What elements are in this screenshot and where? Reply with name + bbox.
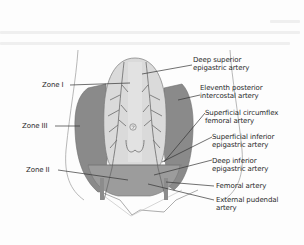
label-superficial-circumflex-femoral-artery: Superficial circumflex femoral artery [205,109,278,125]
label-zone-3: Zone III [22,122,47,130]
label-line-1: Superficial circumflex [205,109,278,117]
label-line-1: External pudendal [216,196,278,204]
label-eleventh-posterior-intercostal-artery: Eleventh posterior intercostal artery [200,84,263,100]
label-line-2: femoral artery [205,117,278,125]
label-deep-inferior-epigastric-artery: Deep inferior epigastric artery [212,157,268,173]
linea-alba-strip [128,62,142,162]
femoral-vessel-left [100,178,104,200]
label-line-1: Deep superior [193,56,249,64]
label-line-2: epigastric artery [212,165,268,173]
label-line-1: Deep inferior [212,157,268,165]
label-zone-1: Zone I [42,81,64,89]
label-line-2: epigastric artery [212,141,274,149]
umbilicus-icon [130,124,136,130]
label-line-2: artery [216,204,278,212]
label-superficial-inferior-epigastric-artery: Superficial inferior epigastric artery [212,133,274,149]
figure-canvas: Zone I Zone III Zone II Deep superior ep… [0,0,304,245]
label-line-1: Superficial inferior [212,133,274,141]
label-line-1: Femoral artery [216,182,266,190]
label-zone-2: Zone II [26,166,49,174]
label-external-pudendal-artery: External pudendal artery [216,196,278,212]
label-deep-superior-epigastric-artery: Deep superior epigastric artery [193,56,249,72]
torso-outline-right [224,50,242,200]
label-line-2: epigastric artery [193,64,249,72]
label-femoral-artery: Femoral artery [216,182,266,190]
label-line-2: intercostal artery [200,92,263,100]
label-line-1: Eleventh posterior [200,84,263,92]
